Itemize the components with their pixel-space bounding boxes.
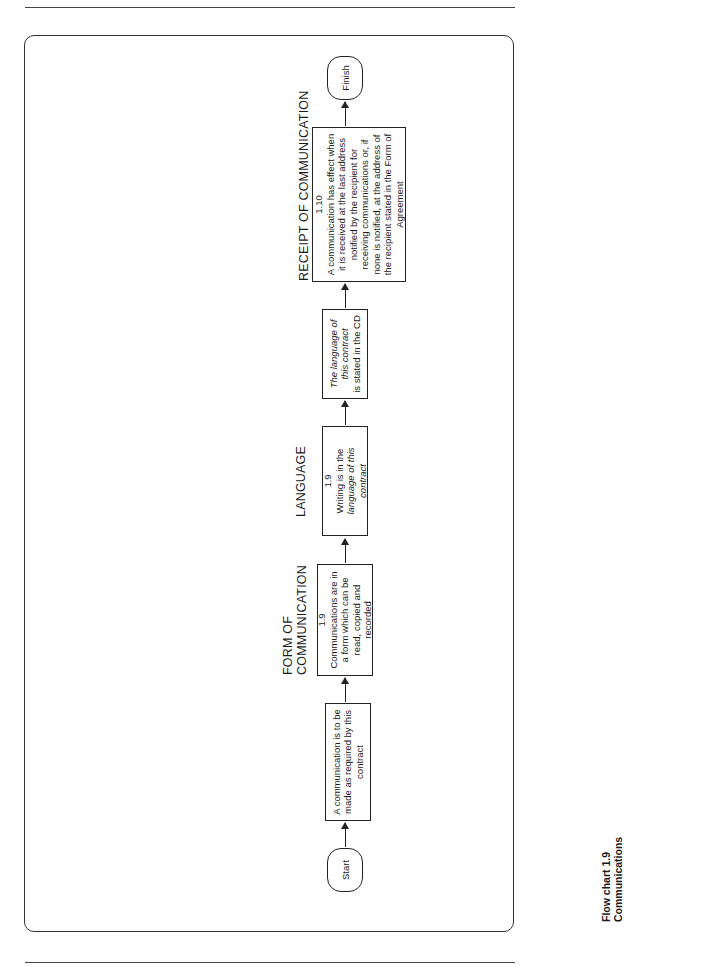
arrow-step2-to-step3 (345, 539, 346, 563)
step4-text-italic: The language of this contract (328, 314, 351, 394)
flowchart-canvas: Start A communication is to be made as r… (0, 0, 701, 967)
footer-rule (25, 962, 515, 963)
step3-clause: 1.9 (322, 474, 334, 487)
arrow-step5-to-finish (345, 102, 346, 126)
step4-text: is stated in the CD (351, 315, 363, 393)
step-language-in-cd: The language of this contract is stated … (322, 309, 368, 399)
caption-title: Flow chart 1.9 (600, 802, 612, 922)
step3-text: Writing is in the (334, 449, 346, 514)
heading-receipt-text: RECEIPT OF COMMUNICATION (297, 91, 311, 281)
flowchart-caption: Flow chart 1.9 Communications (600, 802, 624, 922)
heading-receipt-of-communication: RECEIPT OF COMMUNICATION (297, 81, 311, 281)
arrow-step1-to-step2 (345, 678, 346, 702)
heading-line1: FORM OF (281, 555, 295, 675)
step2-text: Communications are in a form which can b… (328, 569, 374, 671)
step5-clause: 1.10 (313, 195, 325, 214)
step3-text-italic: language of this contract (345, 431, 368, 531)
step-communication-required: A communication is to be made as require… (325, 703, 371, 821)
arrow-step4-to-step5 (345, 284, 346, 308)
start-terminal: Start (327, 848, 363, 892)
start-label: Start (340, 860, 351, 880)
heading-form-of-communication: FORM OF COMMUNICATION (281, 555, 309, 675)
step-language: 1.9 Writing is in the language of this c… (322, 426, 368, 536)
arrow-start-to-step1 (345, 823, 346, 847)
step1-text: A communication is to be made as require… (331, 708, 366, 816)
caption-subtitle: Communications (612, 802, 624, 922)
step-receipt-of-communication: 1.10 A communication has effect when it … (312, 127, 406, 282)
heading-line2: COMMUNICATION (295, 555, 309, 675)
heading-language-text: LANGUAGE (294, 446, 308, 517)
finish-terminal: Finish (327, 56, 363, 100)
finish-label: Finish (340, 65, 351, 90)
step5-text: A communication has effect when it is re… (325, 132, 406, 277)
step-form-of-communication: 1.9 Communications are in a form which c… (317, 564, 373, 676)
arrow-step3-to-step4 (345, 401, 346, 425)
heading-language: LANGUAGE (294, 417, 308, 517)
step2-clause: 1.9 (316, 613, 328, 626)
